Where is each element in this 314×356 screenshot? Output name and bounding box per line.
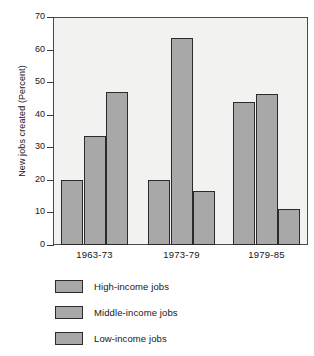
bar <box>233 102 255 245</box>
bar <box>106 92 128 245</box>
bar <box>148 180 170 245</box>
bars-layer <box>53 17 308 245</box>
legend-swatch <box>55 332 83 345</box>
bar <box>278 209 300 245</box>
y-axis-tick-label: 70 <box>35 11 45 22</box>
x-axis-label: 1979-85 <box>227 249 307 260</box>
bar <box>171 38 193 245</box>
x-axis-label: 1973-79 <box>142 249 222 260</box>
legend-swatch <box>55 306 83 319</box>
y-axis-tick-label: 50 <box>35 76 45 87</box>
y-axis-title: New jobs created (Percent) <box>17 21 27 221</box>
bar <box>84 136 106 245</box>
legend-item: High-income jobs <box>55 277 178 295</box>
y-axis-tick-label: 0 <box>40 239 45 250</box>
y-axis-tick-label: 30 <box>35 141 45 152</box>
y-axis-tick-label: 20 <box>35 174 45 185</box>
bar-chart-figure: New jobs created (Percent) 0102030405060… <box>0 0 314 356</box>
bar <box>61 180 83 245</box>
legend-item: Low-income jobs <box>55 329 178 347</box>
y-axis-tick-label: 10 <box>35 206 45 217</box>
y-axis-tick-label: 60 <box>35 44 45 55</box>
legend-item: Middle-income jobs <box>55 303 178 321</box>
legend-swatch <box>55 280 83 293</box>
x-axis-label: 1963-73 <box>55 249 135 260</box>
bar <box>193 191 215 245</box>
y-axis-tick-mark <box>47 245 54 246</box>
bar <box>256 94 278 245</box>
chart-legend: High-income jobsMiddle-income jobsLow-in… <box>55 277 178 355</box>
legend-label: High-income jobs <box>94 281 169 292</box>
y-axis-tick-label: 40 <box>35 109 45 120</box>
legend-label: Middle-income jobs <box>94 307 178 318</box>
legend-label: Low-income jobs <box>94 333 167 344</box>
